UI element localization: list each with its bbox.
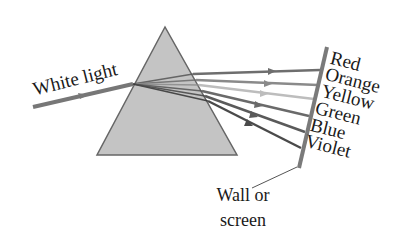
ray-orange [196,80,318,85]
wall-label-line1: Wall or [208,183,278,208]
wall-label-line2: screen [208,208,278,233]
prism-dispersion-diagram: White light Red Orange Yellow Green Blue… [0,0,414,245]
ray-yellow [199,85,314,99]
ray-red [193,70,320,74]
wall-screen-label: Wall or screen [208,183,278,233]
ray-arrow-icons [244,68,276,126]
